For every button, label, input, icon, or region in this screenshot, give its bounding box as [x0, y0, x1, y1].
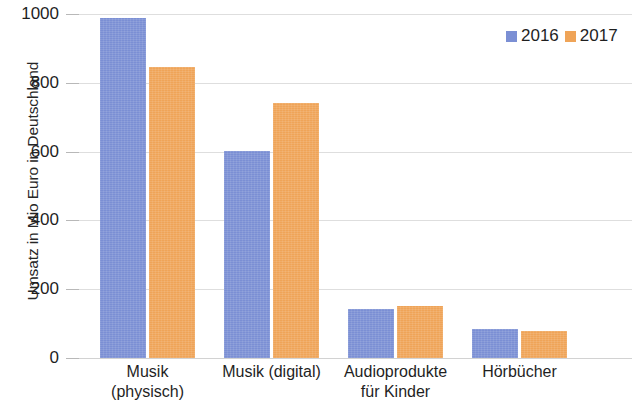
- y-axis-tick: [66, 152, 79, 153]
- y-axis-tick-label: 800: [0, 73, 59, 93]
- y-axis-tick-label: 600: [0, 142, 59, 162]
- y-axis-tick: [66, 14, 79, 15]
- legend-item-2016: 2016: [506, 26, 559, 46]
- y-axis-tick: [66, 358, 79, 359]
- plot-area: [78, 14, 632, 358]
- category-label-line2: (physisch): [68, 382, 228, 402]
- gridline: [78, 358, 632, 359]
- y-axis-tick-label: 200: [0, 279, 59, 299]
- category-label-line1: Musik (digital): [222, 363, 321, 380]
- legend-label-2016: 2016: [521, 26, 559, 46]
- legend-label-2017: 2017: [580, 26, 618, 46]
- chart-legend: 2016 2017: [506, 26, 618, 46]
- legend-swatch-2016-icon: [506, 31, 517, 42]
- bar-2017-3: [521, 331, 567, 358]
- bar-2016-3: [472, 329, 518, 358]
- legend-swatch-2017-icon: [565, 31, 576, 42]
- bar-2017-2: [397, 306, 443, 358]
- category-label-line1: Hörbücher: [482, 363, 557, 380]
- y-axis-tick-label: 0: [0, 348, 59, 368]
- category-label-line1: Audioprodukte: [344, 363, 447, 380]
- y-axis-tick: [66, 289, 79, 290]
- x-axis-category-label: Hörbücher: [440, 362, 600, 382]
- category-label-line1: Musik: [127, 363, 169, 380]
- bar-2016-0: [100, 18, 146, 358]
- y-axis-tick: [66, 83, 79, 84]
- gridline: [78, 14, 632, 15]
- bar-2016-2: [348, 309, 394, 358]
- bar-2016-1: [224, 151, 270, 358]
- bar-2017-1: [273, 103, 319, 358]
- bar-2017-0: [149, 67, 195, 358]
- y-axis-tick: [66, 220, 79, 221]
- y-axis-tick-label: 1000: [0, 4, 59, 24]
- bar-chart: Umsatz in Mio Euro in Deutschland 2016 2…: [0, 0, 635, 418]
- category-label-line2: für Kinder: [316, 382, 476, 402]
- y-axis-tick-label: 400: [0, 210, 59, 230]
- legend-item-2017: 2017: [565, 26, 618, 46]
